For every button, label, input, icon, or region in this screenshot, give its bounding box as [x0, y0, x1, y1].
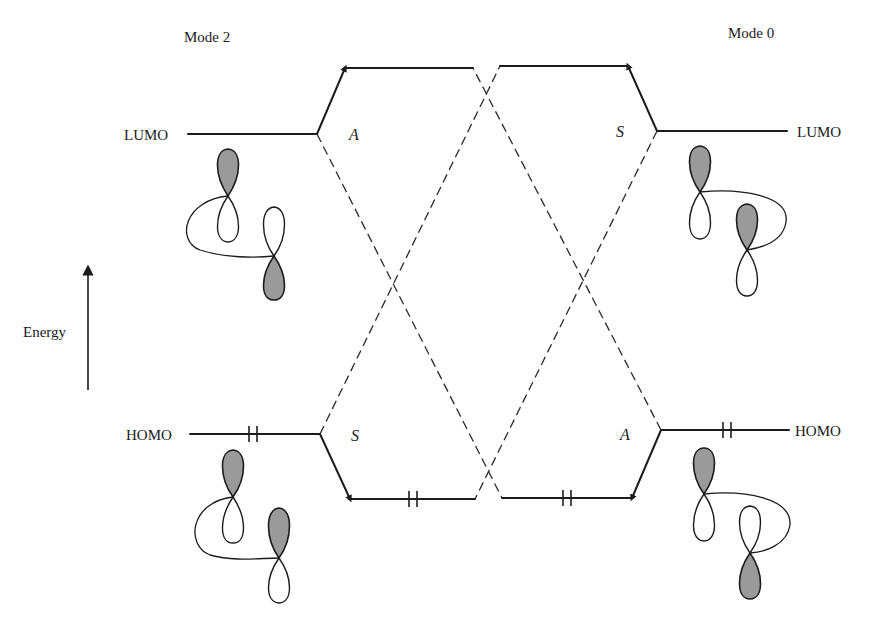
right-lumo-orbital-icon: [690, 146, 787, 296]
lower-left-level: [320, 434, 475, 499]
right-lumo-label: LUMO: [797, 124, 841, 140]
right-lumo-symmetry: S: [616, 123, 624, 140]
correlation-line-s-right: [475, 131, 657, 499]
center-levels: [317, 66, 661, 507]
lower-right-level: [502, 430, 661, 498]
left-panel: LUMO A HOMO S: [124, 126, 359, 603]
left-lumo-symmetry: A: [348, 126, 359, 143]
right-homo-symmetry: A: [619, 426, 630, 443]
correlation-line-a-right: [473, 68, 661, 430]
mode-0-label: Mode 0: [728, 25, 774, 41]
left-homo-label: HOMO: [126, 427, 172, 443]
correlation-line-a-left: [317, 134, 502, 498]
left-homo-symmetry: S: [351, 427, 359, 444]
energy-axis: Energy: [23, 270, 88, 390]
right-homo-orbital-icon: [694, 448, 791, 599]
right-panel: LUMO S HOMO A: [616, 123, 841, 599]
mode-2-label: Mode 2: [184, 29, 230, 45]
upper-left-level: [317, 68, 473, 134]
left-lumo-label: LUMO: [124, 127, 168, 143]
left-lumo-orbital-icon: [187, 149, 285, 300]
energy-label: Energy: [23, 324, 67, 340]
right-homo-label: HOMO: [795, 423, 841, 439]
correlation-line-s-left: [320, 66, 500, 434]
left-homo-orbital-icon: [195, 450, 290, 603]
correlation-lines: [317, 66, 661, 499]
correlation-diagram: Mode 2 Mode 0 Energy LUMO A HOMO S: [0, 0, 882, 624]
upper-right-level: [500, 66, 657, 131]
